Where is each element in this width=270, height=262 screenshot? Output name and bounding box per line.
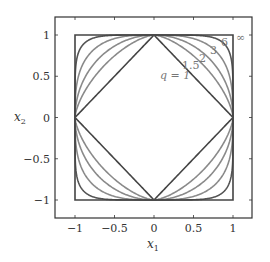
x-tick-label: −0.5 — [101, 222, 128, 235]
label-q6: 6 — [221, 36, 228, 49]
x-tick-label: 0.5 — [185, 222, 203, 235]
label-q3: 3 — [210, 44, 217, 57]
curve-q-1-5 — [75, 35, 233, 200]
x-axis-label: x1 — [147, 237, 159, 253]
x-tick-label: 1 — [230, 222, 237, 235]
y-tick-label: −1 — [34, 194, 50, 207]
ticks-group: −1−0.500.51−1−0.500.51 — [23, 17, 252, 235]
curve-q-1 — [75, 35, 233, 200]
label-qinf: ∞ — [236, 31, 245, 44]
y-tick-label: 0.5 — [33, 70, 51, 83]
label-q2: 2 — [199, 52, 206, 65]
y-tick-label: 1 — [43, 29, 50, 42]
label-q1-5: 1.5 — [182, 59, 200, 72]
curve-q-6 — [75, 35, 233, 200]
y-axis-label: x2 — [14, 110, 26, 126]
curve-q-2 — [75, 35, 233, 200]
y-tick-label: 0 — [43, 112, 50, 125]
x-tick-label: 0 — [151, 222, 158, 235]
y-tick-label: −0.5 — [23, 153, 50, 166]
curve-q-3 — [75, 35, 233, 200]
curve-q-inf — [75, 35, 233, 200]
unit-ball-chart: −1−0.500.51−1−0.500.51 x1 x2 q = 1 1.5 2… — [0, 0, 270, 262]
curves-group — [75, 35, 233, 200]
x-tick-label: −1 — [67, 222, 83, 235]
